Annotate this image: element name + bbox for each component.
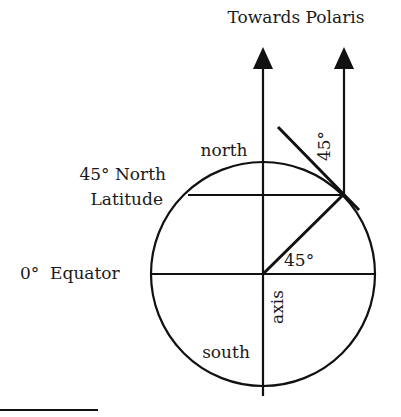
observer-arrowhead-icon (334, 47, 354, 69)
towards-polaris-label: Towards Polaris (228, 7, 365, 27)
center-angle-label: 45° (284, 250, 314, 270)
latitude-label-line2: Latitude (91, 189, 163, 209)
equator-label: 0° Equator (20, 263, 121, 283)
north-label: north (200, 140, 247, 160)
axis-label: axis (267, 290, 287, 324)
south-label: south (202, 342, 250, 362)
latitude-polaris-diagram: Towards Polaris north 45° North Latitude… (0, 0, 401, 417)
axis-arrowhead-icon (253, 47, 273, 69)
tangent-angle-label: 45° (314, 131, 334, 161)
latitude-label-line1: 45° North (79, 164, 166, 184)
